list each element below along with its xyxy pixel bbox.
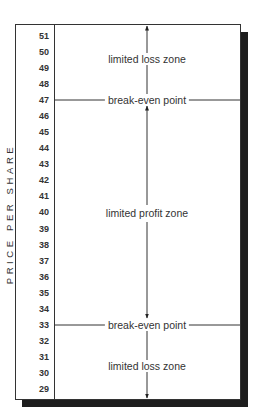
upper-loss-zone-label: limited loss zone	[105, 53, 189, 65]
lower-loss-zone-label: limited loss zone	[105, 360, 189, 372]
lower-break-even-label: break-even point	[105, 319, 189, 331]
upper-break-even-label: break-even point	[105, 94, 189, 106]
profit-zone-label: limited profit zone	[103, 207, 191, 219]
